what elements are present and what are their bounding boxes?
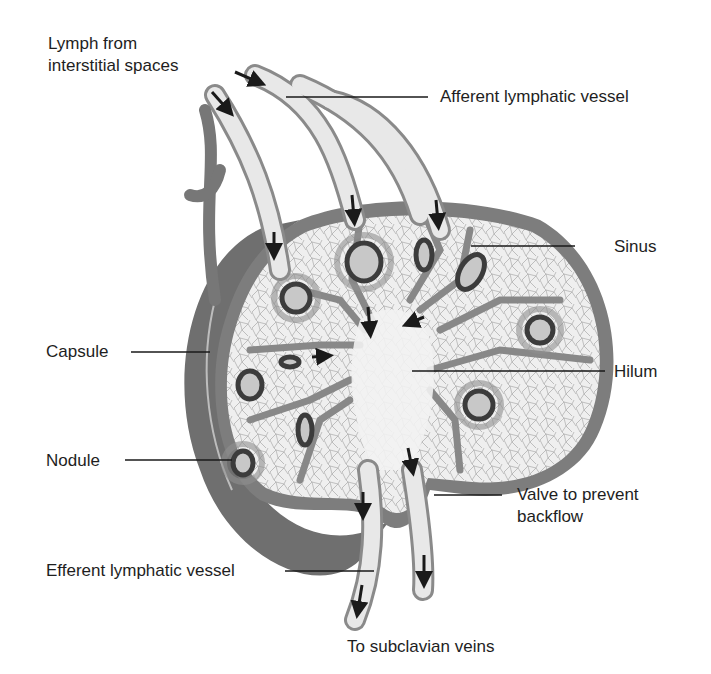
label-to-subclavian-veins: To subclavian veins — [347, 636, 494, 658]
label-efferent-vessel: Efferent lymphatic vessel — [46, 560, 235, 582]
label-capsule: Capsule — [46, 341, 108, 363]
label-sinus: Sinus — [614, 236, 657, 258]
label-afferent-vessel: Afferent lymphatic vessel — [440, 86, 629, 108]
label-lymph-from-interstitial: Lymph from interstitial spaces — [48, 33, 178, 77]
label-hilum: Hilum — [614, 361, 657, 383]
label-valve-backflow: Valve to prevent backflow — [517, 484, 639, 528]
label-nodule: Nodule — [46, 450, 100, 472]
